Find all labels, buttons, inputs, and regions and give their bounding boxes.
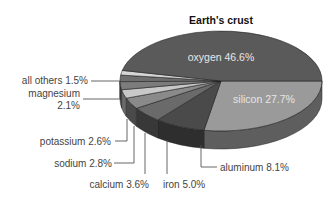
label-magnesium-value: 2.1% [57,100,80,111]
label-magnesium: magnesium [28,88,80,99]
label-iron: iron 5.0% [163,179,205,190]
label-calcium: calcium 3.6% [90,179,150,190]
chart-title: Earth's crust [189,14,253,26]
pie-top-faces [120,31,322,131]
leader-potassium [115,119,127,141]
label-all-others: all others 1.5% [22,75,88,86]
label-sodium: sodium 2.8% [54,158,112,169]
pie-chart: Earth's crust oxygen 46.6% silicon 27.7%… [0,0,331,202]
label-potassium: potassium 2.6% [40,136,111,147]
leader-sodium [114,126,134,163]
label-aluminum: aluminum 8.1% [220,162,289,173]
label-silicon: silicon 27.7% [233,93,295,105]
label-oxygen: oxygen 46.6% [188,51,255,63]
